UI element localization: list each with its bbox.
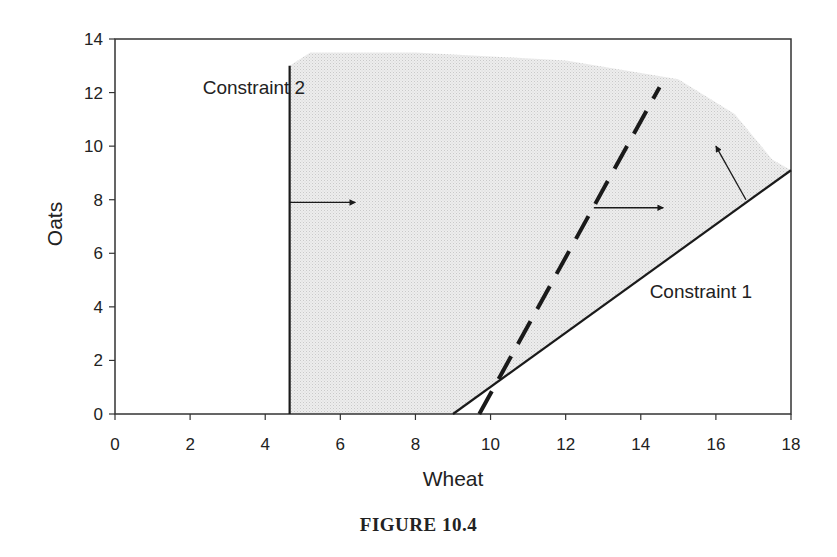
y-tick-label: 0 [94,405,103,424]
x-tick-label: 18 [782,435,801,454]
y-tick-label: 14 [84,30,103,49]
y-tick-label: 6 [94,244,103,263]
x-axis-title: Wheat [423,467,484,490]
x-tick-label: 12 [556,435,575,454]
x-axis-ticks: 024681012141618 [110,414,800,454]
chart: 024681012141618 02468101214 Constraint 2… [0,0,837,557]
y-tick-label: 12 [84,84,103,103]
x-tick-label: 10 [481,435,500,454]
x-tick-label: 0 [110,435,119,454]
constraint-2-label: Constraint 2 [203,77,305,98]
x-tick-label: 6 [336,435,345,454]
y-tick-label: 10 [84,137,103,156]
feasible-region [290,52,791,414]
y-axis-ticks: 02468101214 [84,30,115,424]
x-tick-label: 16 [706,435,725,454]
x-tick-label: 2 [185,435,194,454]
y-tick-label: 2 [94,351,103,370]
figure-caption: FIGURE 10.4 [0,514,837,536]
constraint-1-label: Constraint 1 [650,281,752,302]
x-tick-label: 8 [411,435,420,454]
y-tick-label: 8 [94,191,103,210]
y-tick-label: 4 [94,298,103,317]
y-axis-title: Oats [43,202,66,246]
x-tick-label: 14 [631,435,650,454]
x-tick-label: 4 [260,435,269,454]
